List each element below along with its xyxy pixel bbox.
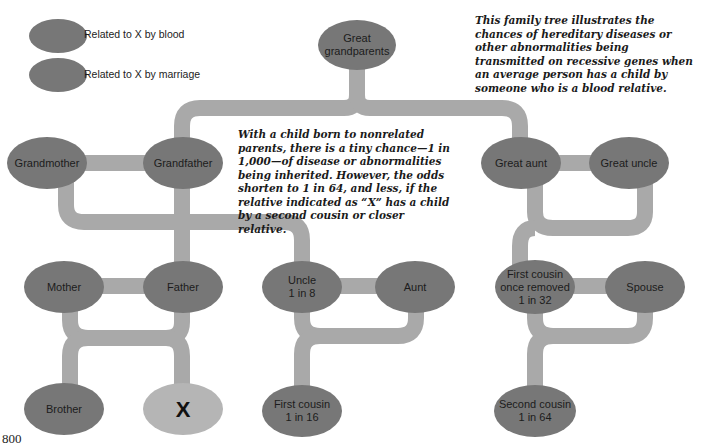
node-label: Great <box>325 32 390 45</box>
node-label: Great uncle <box>601 157 658 170</box>
node-label: X <box>176 403 191 416</box>
node-odds: 1 in 64 <box>499 411 571 424</box>
node-label: First cousin <box>500 268 570 281</box>
node-label: First cousin <box>274 398 330 411</box>
node-first-cousin-once-removed: First cousinonce removed1 in 32 <box>495 260 575 314</box>
legend-blood-label: Related to X by blood <box>84 28 184 40</box>
node-grandfather: Grandfather <box>143 137 223 189</box>
node-great-aunt: Great aunt <box>481 137 561 189</box>
node-father: Father <box>143 261 223 313</box>
node-label: Second cousin <box>499 398 571 411</box>
node-label: Brother <box>46 403 82 416</box>
node-uncle: Uncle1 in 8 <box>262 261 342 313</box>
node-grandmother: Grandmother <box>7 137 87 189</box>
caption-center: With a child born to nonrelated parents,… <box>238 128 456 236</box>
node-label: Aunt <box>404 281 427 294</box>
node-first-cousin: First cousin1 in 16 <box>262 385 342 437</box>
node-label: once removed <box>500 281 570 294</box>
caption-top-right: This family tree illustrates the chances… <box>475 14 700 95</box>
node-label: grandparents <box>325 45 390 58</box>
node-spouse: Spouse <box>605 261 685 313</box>
node-second-cousin: Second cousin1 in 64 <box>494 385 576 437</box>
page-number: 800 <box>2 431 22 447</box>
node-label: Father <box>167 281 199 294</box>
node-label: Mother <box>47 281 81 294</box>
node-odds: 1 in 32 <box>500 294 570 307</box>
node-brother: Brother <box>24 383 104 435</box>
node-odds: 1 in 16 <box>274 411 330 424</box>
node-great-grandparents: Greatgrandparents <box>318 20 396 70</box>
node-mother: Mother <box>24 261 104 313</box>
node-odds: 1 in 8 <box>288 287 316 300</box>
legend-blood-swatch <box>29 19 87 53</box>
node-great-uncle: Great uncle <box>589 137 669 189</box>
node-label: Grandmother <box>15 157 80 170</box>
node-label: Grandfather <box>154 157 213 170</box>
node-label: Great aunt <box>495 157 547 170</box>
node-label: Uncle <box>288 274 316 287</box>
node-x: X <box>143 383 223 435</box>
legend-marriage-label: Related to X by marriage <box>84 68 200 80</box>
node-label: Spouse <box>626 281 663 294</box>
node-aunt: Aunt <box>375 261 455 313</box>
legend-marriage-swatch <box>29 58 87 92</box>
